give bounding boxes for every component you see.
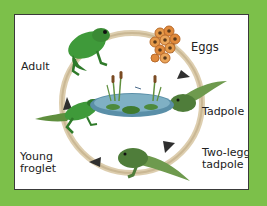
stage-label-line: froglet xyxy=(20,163,56,175)
stage-label-adult: Adult xyxy=(21,61,50,73)
pond-icon xyxy=(90,71,174,117)
stage-label-two-legged-tadpole: Two-legged tadpole xyxy=(202,147,249,171)
stage-label-young-froglet: Young froglet xyxy=(20,151,56,175)
stage-label-tadpole: Tadpole xyxy=(202,106,244,118)
stage-label-line: tadpole xyxy=(202,159,249,171)
stage-label-eggs: Eggs xyxy=(191,41,219,53)
life-cycle-frame: Adult Eggs Tadpole Two-legged tadpole Yo… xyxy=(14,14,249,190)
